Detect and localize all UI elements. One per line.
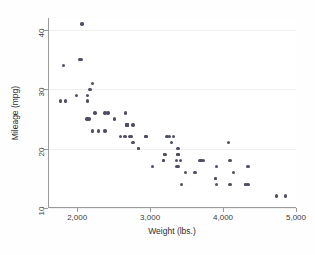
y-tick-label-20: 20 (37, 147, 46, 177)
data-point (64, 99, 67, 102)
data-point (144, 135, 147, 138)
data-point (86, 94, 89, 97)
data-point (80, 22, 83, 25)
data-point (176, 153, 179, 156)
data-point (179, 159, 182, 162)
x-tick-label-3000: 3,000 (128, 213, 172, 222)
data-point (180, 183, 183, 186)
x-tick-4000 (223, 208, 224, 212)
data-point (131, 123, 134, 126)
data-point (184, 171, 187, 174)
data-point (86, 99, 89, 102)
data-point (162, 159, 165, 162)
data-point (246, 165, 249, 168)
data-point (246, 183, 249, 186)
x-axis-title: Weight (lbs.) (48, 226, 296, 236)
data-point (170, 141, 173, 144)
data-point (151, 165, 154, 168)
data-point (275, 194, 278, 197)
data-point (75, 94, 78, 97)
data-point (79, 58, 82, 61)
data-point (172, 135, 175, 138)
x-tick-label-4000: 4,000 (201, 213, 245, 222)
data-point (59, 99, 62, 102)
y-tick-label-30: 30 (37, 88, 46, 118)
data-point (91, 82, 94, 85)
x-tick-2000 (77, 208, 78, 212)
data-point (93, 111, 96, 114)
data-point (175, 159, 178, 162)
data-point (91, 129, 94, 132)
data-point (124, 111, 127, 114)
data-point (228, 183, 231, 186)
data-point (176, 165, 179, 168)
data-point (103, 111, 106, 114)
data-point (113, 117, 116, 120)
plot-area (48, 18, 296, 208)
y-tick-label-40: 40 (37, 28, 46, 58)
data-point (284, 194, 287, 197)
data-point (86, 117, 89, 120)
data-points-layer (49, 18, 296, 207)
data-point (131, 141, 134, 144)
data-point (103, 129, 106, 132)
data-point (125, 123, 128, 126)
data-point (215, 165, 218, 168)
data-point (176, 147, 179, 150)
data-point (97, 129, 100, 132)
y-axis-title: Mileage (mpg) (10, 18, 22, 208)
x-tick-label-2000: 2,000 (55, 213, 99, 222)
data-point (215, 183, 218, 186)
data-point (62, 64, 65, 67)
gridline-y-10 (49, 208, 296, 209)
data-point (88, 88, 91, 91)
data-point (214, 177, 217, 180)
data-point (106, 111, 109, 114)
x-tick-5000 (296, 208, 297, 212)
data-point (227, 141, 230, 144)
data-point (123, 135, 126, 138)
data-point (228, 159, 231, 162)
x-tick-3000 (150, 208, 151, 212)
y-tick-label-10: 10 (37, 207, 46, 237)
data-point (119, 135, 122, 138)
data-point (193, 171, 196, 174)
scatter-plot-figure: Mileage (mpg) 10203040 2,0003,0004,0005,… (0, 0, 315, 255)
x-tick-label-5000: 5,000 (274, 213, 315, 222)
data-point (137, 147, 140, 150)
data-point (244, 183, 247, 186)
data-point (232, 171, 235, 174)
